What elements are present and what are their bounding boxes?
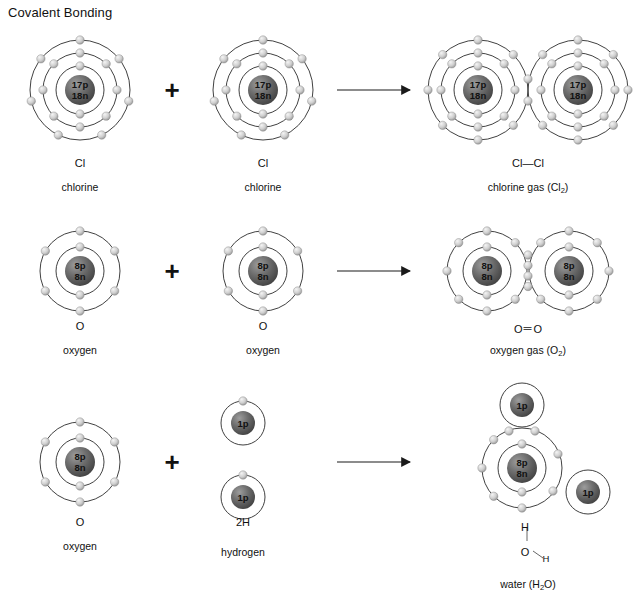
nucleus-label: 1p: [582, 487, 593, 498]
electron: [76, 36, 84, 44]
electron: [518, 488, 526, 496]
electron: [259, 227, 267, 235]
electron: [76, 482, 84, 490]
label-name-o2: oxygen gas (O2): [490, 344, 566, 358]
label-formula-o2: O＝O: [514, 320, 542, 336]
nucleus-label: 18n: [470, 90, 487, 101]
electron: [237, 131, 245, 139]
label-symbol-cl-1: Cl: [75, 157, 85, 169]
label-name-o-3: oxygen: [63, 540, 97, 552]
shared-electron: [505, 427, 513, 435]
electron: [483, 291, 491, 299]
electron: [76, 227, 84, 235]
electron: [210, 97, 218, 105]
electron: [609, 121, 617, 129]
electron: [110, 438, 118, 446]
electron: [224, 287, 232, 295]
electron: [565, 243, 573, 251]
electron: [76, 110, 84, 118]
electron: [537, 86, 545, 94]
electron: [537, 295, 545, 303]
electron: [574, 36, 582, 44]
shared-electron: [531, 427, 539, 435]
electron: [222, 86, 230, 94]
electron: [220, 55, 228, 63]
nucleus-label: 8n: [563, 271, 574, 282]
electron: [448, 60, 456, 68]
electron: [600, 112, 608, 120]
electron: [565, 307, 573, 315]
electron: [565, 227, 573, 235]
electron: [39, 86, 47, 94]
electron: [609, 50, 617, 58]
nucleus-label: 8n: [74, 271, 85, 282]
electron: [478, 464, 486, 472]
electron: [293, 287, 301, 295]
electron: [437, 86, 445, 94]
electron: [537, 239, 545, 247]
electron: [593, 239, 601, 247]
electron: [518, 504, 526, 512]
electron: [233, 60, 241, 68]
electron: [511, 295, 519, 303]
electron: [296, 86, 304, 94]
electron: [97, 131, 105, 139]
nucleus-label: 1p: [516, 400, 527, 411]
electron: [511, 239, 519, 247]
shared-electron: [524, 75, 532, 83]
nucleus-label: 8n: [481, 271, 492, 282]
nucleus-label: 18n: [570, 90, 587, 101]
electron: [565, 291, 573, 299]
label-name-h: hydrogen: [221, 546, 265, 558]
electron: [259, 307, 267, 315]
electron: [259, 110, 267, 118]
electron: [76, 243, 84, 251]
electron: [500, 112, 508, 120]
electron: [41, 247, 49, 255]
nucleus-label: 8p: [74, 451, 85, 462]
electron: [574, 136, 582, 144]
electron: [509, 50, 517, 58]
electron: [548, 112, 556, 120]
nucleus-label: 1p: [237, 492, 248, 503]
label-formula-h2o-o: O: [521, 546, 530, 558]
electron: [611, 86, 619, 94]
electron: [538, 121, 546, 129]
electron: [438, 121, 446, 129]
label-formula-cl2: Cl—Cl: [512, 157, 544, 169]
electron: [574, 123, 582, 131]
nucleus-label: 17p: [72, 79, 89, 90]
covalent-bonding-figure: Covalent Bonding 17p18n17p18n17p18n17p18…: [0, 0, 641, 607]
electron: [574, 62, 582, 70]
diagram-canvas: 17p18n17p18n17p18n17p18n8p8n8p8n8p8n8p8n…: [0, 0, 641, 607]
electron: [259, 243, 267, 251]
electron: [54, 131, 62, 139]
electron: [293, 247, 301, 255]
electron: [490, 492, 498, 500]
electron: [76, 418, 84, 426]
label-symbol-o-1: O: [76, 320, 85, 332]
shared-electron: [524, 261, 532, 269]
label-symbol-cl-2: Cl: [258, 157, 268, 169]
nucleus-label: 18n: [255, 90, 272, 101]
electron: [483, 243, 491, 251]
electron: [259, 49, 267, 57]
electron: [474, 49, 482, 57]
electron: [50, 112, 58, 120]
electron: [110, 478, 118, 486]
electron: [259, 62, 267, 70]
electron: [424, 86, 432, 94]
nucleus-label: 8n: [257, 271, 268, 282]
shared-electron: [524, 251, 532, 259]
electron: [483, 307, 491, 315]
electron: [624, 86, 632, 94]
electron: [259, 291, 267, 299]
electron: [239, 471, 247, 479]
shared-electron: [524, 97, 532, 105]
electron: [110, 247, 118, 255]
electron: [239, 397, 247, 405]
nucleus-label: 17p: [570, 79, 587, 90]
shared-electron: [554, 450, 562, 458]
electron: [605, 267, 613, 275]
electron: [115, 55, 123, 63]
